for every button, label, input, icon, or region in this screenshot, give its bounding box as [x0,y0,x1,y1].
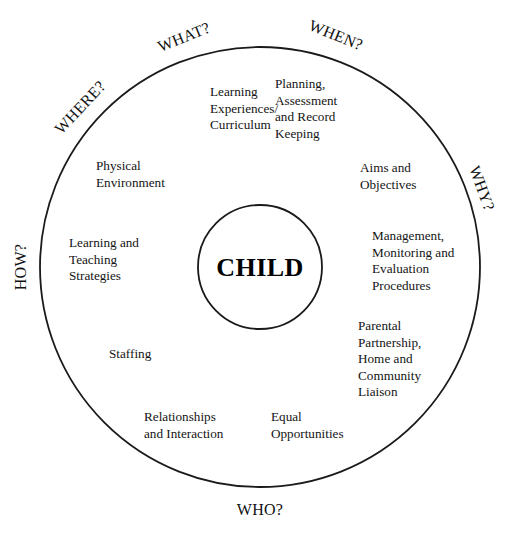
outer-question-what: WHAT? [155,19,212,55]
outer-question-when: WHEN? [307,16,366,53]
sector-label-line: Monitoring and [372,245,455,260]
outer-question-how: HOW? [12,244,29,291]
sector-label-line: Partnership, [358,335,421,350]
sector-label-line: Home and [358,351,413,366]
sector-label-line: Parental [358,318,402,333]
sector-label-line: Equal [271,409,302,424]
sector-label-staffing: Staffing [109,346,152,361]
wheel-diagram-canvas: LearningExperiences/CurriculumPlanning,A… [0,0,520,534]
sector-label-line: Curriculum [210,117,272,132]
wheel-diagram: LearningExperiences/CurriculumPlanning,A… [0,0,520,534]
sector-label-line: Keeping [275,126,320,141]
sector-label-line: Experiences/ [210,101,278,116]
sector-label-line: Environment [96,175,165,190]
sector-label-line: Physical [96,158,141,173]
sector-label-line: Assessment [275,93,338,108]
sector-label-line: Evaluation [372,261,430,276]
sector-label-line: Learning [210,84,258,99]
sector-label-relationships-and-interaction: Relationshipsand Interaction [144,409,224,441]
sector-label-line: Learning and [69,235,139,250]
sector-label-line: Community [358,368,421,383]
sector-label-aims-and-objectives: Aims andObjectives [360,160,416,192]
sector-label-line: Planning, [275,76,325,91]
sector-label-line: and Record [275,109,336,124]
sector-label-line: Relationships [144,409,216,424]
sector-label-line: Procedures [372,278,431,293]
sector-label-line: Staffing [109,346,152,361]
sector-label-line: Management, [372,228,444,243]
sector-label-line: Aims and [360,160,411,175]
sector-label-line: Teaching [69,252,118,267]
sector-label-line: Objectives [360,177,416,192]
sector-label-line: and Interaction [144,426,224,441]
center-label: CHILD [216,253,304,282]
sector-label-line: Liaison [358,384,398,399]
sector-label-line: Opportunities [271,426,344,441]
outer-question-who: WHO? [237,501,284,518]
sector-label-line: Strategies [69,268,121,283]
